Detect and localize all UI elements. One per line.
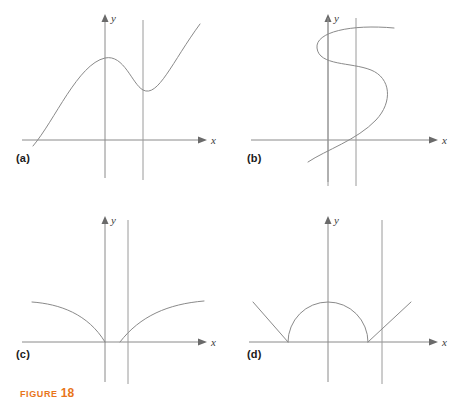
panel-label-c: (c)	[16, 348, 30, 360]
panel-label-a: (a)	[16, 152, 30, 164]
curve-path-right-branch	[120, 301, 204, 342]
x-axis-label: x	[441, 134, 447, 146]
panel-c: x y (c)	[0, 198, 232, 396]
panel-d: x y (d)	[231, 198, 463, 396]
x-axis-arrow-icon	[198, 339, 207, 346]
y-axis-label: y	[333, 12, 339, 24]
panel-a-graph: x y	[0, 0, 232, 198]
y-axis-label: y	[333, 214, 339, 226]
x-axis-label: x	[210, 336, 216, 348]
y-axis-arrow-icon	[102, 216, 109, 224]
figure-caption: FIGURE 18	[20, 386, 74, 400]
panel-b-graph: x y	[231, 0, 463, 198]
panel-label-d: (d)	[247, 348, 262, 360]
figure-caption-number: 18	[61, 386, 74, 400]
panel-label-b: (b)	[247, 152, 262, 164]
figure-caption-label: FIGURE	[20, 389, 58, 399]
curve-path-right-ray	[368, 302, 411, 342]
curve-path	[33, 24, 200, 146]
panel-c-graph: x y	[0, 198, 232, 396]
panel-d-graph: x y	[231, 198, 463, 396]
curve-path-left-branch	[32, 302, 105, 342]
curve-path-left-ray	[253, 302, 288, 342]
panel-a: x y (a)	[0, 0, 232, 198]
x-axis-arrow-icon	[429, 137, 438, 144]
x-axis-arrow-icon	[429, 339, 438, 346]
y-axis-label: y	[110, 214, 116, 226]
y-axis-arrow-icon	[102, 14, 109, 22]
y-axis-label: y	[110, 12, 116, 24]
x-axis-arrow-icon	[198, 137, 207, 144]
x-axis-label: x	[210, 134, 216, 146]
curve-path	[308, 27, 394, 162]
x-axis-label: x	[441, 336, 447, 348]
y-axis-arrow-icon	[325, 216, 332, 224]
panel-b: x y (b)	[231, 0, 463, 198]
